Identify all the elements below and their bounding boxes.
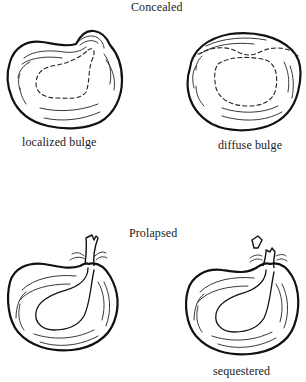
disc-illustrations (0, 0, 306, 382)
disc-sequestered-icon (186, 236, 298, 354)
disc-localized-bulge-icon (8, 31, 122, 128)
disc-diffuse-bulge-icon (188, 33, 301, 130)
disc-extrusion-icon (8, 235, 117, 350)
